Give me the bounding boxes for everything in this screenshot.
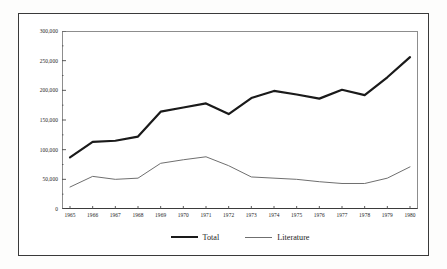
chart-figure: 050,000100,000150,000200,000250,000300,0… <box>0 0 447 269</box>
legend-swatch-total-icon <box>171 236 198 238</box>
y-tick-label: 100,000 <box>40 147 58 153</box>
legend-swatch-literature-icon <box>245 237 272 238</box>
series-line-total <box>70 57 410 157</box>
chart-legend: Total Literature <box>62 229 418 245</box>
x-axis-ticks <box>70 206 410 209</box>
y-tick-label: 150,000 <box>40 117 58 123</box>
x-tick-label: 1967 <box>110 212 121 218</box>
legend-item-literature: Literature <box>245 233 309 242</box>
x-tick-label: 1970 <box>178 212 189 218</box>
chart-lines <box>62 31 418 209</box>
y-axis-ticks <box>62 31 66 209</box>
x-tick-label: 1971 <box>200 212 211 218</box>
y-tick-label: 50,000 <box>43 176 58 182</box>
x-tick-label: 1969 <box>155 212 166 218</box>
series-line-literature <box>70 157 410 187</box>
y-tick-label: 0 <box>55 206 58 212</box>
plot-area <box>62 31 418 209</box>
legend-item-total: Total <box>171 233 220 242</box>
y-tick-label: 300,000 <box>40 28 58 34</box>
y-tick-label: 200,000 <box>40 87 58 93</box>
y-tick-label: 250,000 <box>40 58 58 64</box>
x-tick-label: 1975 <box>291 212 302 218</box>
x-tick-label: 1973 <box>246 212 257 218</box>
x-tick-label: 1978 <box>359 212 370 218</box>
x-tick-label: 1972 <box>223 212 234 218</box>
legend-label-total: Total <box>203 233 220 242</box>
legend-label-literature: Literature <box>277 233 309 242</box>
x-tick-label: 1976 <box>314 212 325 218</box>
x-axis-labels: 1965196619671968196919701971197219731974… <box>62 212 418 224</box>
x-tick-label: 1968 <box>132 212 143 218</box>
x-tick-label: 1966 <box>87 212 98 218</box>
x-tick-label: 1977 <box>336 212 347 218</box>
x-tick-label: 1965 <box>64 212 75 218</box>
x-tick-label: 1979 <box>382 212 393 218</box>
x-tick-label: 1974 <box>268 212 279 218</box>
y-axis-labels: 050,000100,000150,000200,000250,000300,0… <box>18 31 58 209</box>
x-tick-label: 1980 <box>404 212 415 218</box>
